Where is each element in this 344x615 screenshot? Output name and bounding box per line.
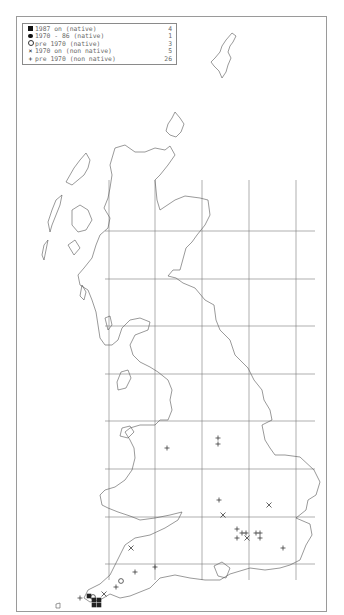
plus-marker: [244, 531, 249, 536]
plus-marker: [235, 536, 240, 541]
plus-marker: [258, 536, 263, 541]
legend: 1987 on (native) 4 1970 - 86 (native) 1 …: [22, 23, 177, 65]
legend-item-pre-1970-non-native: + pre 1970 (non native) 26: [27, 56, 172, 63]
plus-marker: [153, 565, 158, 570]
filled-square-marker: [92, 603, 97, 608]
filled-square-icon: [27, 26, 34, 33]
plus-marker: [165, 446, 170, 451]
filled-square-marker: [92, 598, 97, 603]
plus-marker: [78, 596, 83, 601]
filled-square-marker: [97, 603, 102, 608]
legend-count: 26: [154, 56, 172, 63]
cross-x-marker: [102, 592, 107, 597]
plus-marker: [114, 585, 119, 590]
legend-label: pre 1970 (non native): [34, 56, 154, 63]
plus-marker: [133, 570, 138, 575]
plus-marker: [217, 498, 222, 503]
plus-icon: +: [27, 56, 34, 63]
plus-marker: [258, 531, 263, 536]
distribution-map: [0, 0, 344, 615]
plus-marker: [216, 436, 221, 441]
plus-marker: [235, 527, 240, 532]
cross-x-marker: [129, 546, 134, 551]
open-circle-marker: [119, 579, 124, 584]
plus-marker: [281, 546, 286, 551]
plus-marker: [216, 442, 221, 447]
grid-lines: [105, 180, 315, 580]
cross-x-marker: [267, 503, 272, 508]
filled-square-marker: [97, 598, 102, 603]
coastline: [42, 33, 320, 608]
